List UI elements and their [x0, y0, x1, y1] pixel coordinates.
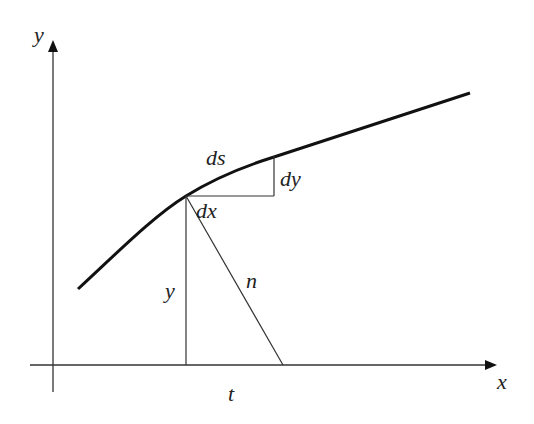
x-axis-label: x: [496, 369, 507, 394]
subnormal-label: t: [228, 381, 235, 406]
curve-diagram: y x ds dy dx y n t: [0, 0, 534, 424]
dx-label: dx: [196, 198, 217, 223]
ordinate-label: y: [163, 278, 175, 303]
dy-label: dy: [280, 166, 301, 191]
ds-label: ds: [206, 145, 226, 170]
normal-label: n: [246, 268, 257, 293]
y-axis-label: y: [32, 22, 44, 47]
